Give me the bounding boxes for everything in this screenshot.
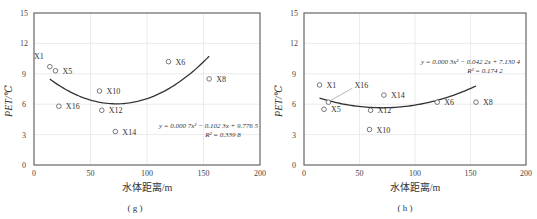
x-axis-label: 水体距离/m <box>122 181 173 193</box>
svg-text:15: 15 <box>20 9 28 18</box>
svg-text:100: 100 <box>409 169 421 178</box>
point-marker-icon <box>48 64 53 69</box>
data-point-x14: X14 <box>113 128 136 137</box>
svg-text:R² = 0.174 2: R² = 0.174 2 <box>466 67 503 75</box>
svg-text:200: 200 <box>254 169 266 178</box>
svg-text:9: 9 <box>292 70 296 79</box>
panel-caption: ( h ) <box>398 203 413 213</box>
chart-panel-g: 03691215050100150200水体距离/mPET/℃( g )X1X5… <box>3 9 266 213</box>
point-label: X6 <box>175 58 185 67</box>
point-marker-icon <box>382 93 387 98</box>
point-marker-icon <box>474 100 479 105</box>
point-label: X5 <box>62 67 72 76</box>
point-label: X6 <box>444 98 454 107</box>
point-marker-icon <box>100 108 105 113</box>
svg-text:50: 50 <box>356 169 364 178</box>
svg-text:9: 9 <box>22 70 26 79</box>
point-marker-icon <box>166 59 171 64</box>
data-point-x12: X12 <box>100 106 123 115</box>
chart-panel-h: 03691215050100150200水体距离/mPET/℃( h )X1X1… <box>273 9 532 213</box>
point-label: X14 <box>122 128 136 137</box>
point-marker-icon <box>207 77 212 82</box>
svg-text:3: 3 <box>22 131 26 140</box>
point-label: X14 <box>391 91 405 100</box>
point-label: X8 <box>216 75 226 84</box>
point-marker-icon <box>317 83 322 88</box>
point-label: X5 <box>331 105 341 114</box>
point-label: X10 <box>107 87 121 96</box>
data-point-x8: X8 <box>207 75 226 84</box>
svg-text:0: 0 <box>32 169 36 178</box>
data-point-x6: X6 <box>166 58 185 67</box>
svg-text:50: 50 <box>87 169 95 178</box>
regression-equation: y = 0.000 3x² − 0.042 2x + 7.130 4R² = 0… <box>420 58 521 75</box>
svg-text:3: 3 <box>292 131 296 140</box>
data-point-x16: X16 <box>57 102 80 111</box>
data-point-x10: X10 <box>97 87 120 96</box>
point-marker-icon <box>435 100 440 105</box>
data-point-x14: X14 <box>382 91 405 100</box>
point-marker-icon <box>368 108 373 113</box>
regression-equation: y = 0.000 7x² − 0.102 3x + 9.776 5R² = 0… <box>158 122 259 139</box>
svg-text:0: 0 <box>292 161 296 170</box>
data-point-x1: X1 <box>34 52 52 69</box>
chart-canvas: 03691215050100150200水体距离/mPET/℃( g )X1X5… <box>0 0 537 219</box>
data-point-x5: X5 <box>322 105 341 114</box>
y-tick-labels: 03691215 <box>290 9 298 170</box>
point-label: X1 <box>34 52 44 61</box>
data-point-x1: X1 <box>317 81 336 90</box>
data-point-x10: X10 <box>367 126 390 135</box>
x-tick-labels: 050100150200 <box>32 169 266 178</box>
y-axis-label: PET/℃ <box>3 85 14 118</box>
svg-text:100: 100 <box>141 169 153 178</box>
label-leader-line <box>329 88 352 101</box>
point-label: X8 <box>483 98 493 107</box>
point-marker-icon <box>322 107 327 112</box>
y-tick-labels: 03691215 <box>20 9 28 170</box>
svg-text:y = 0.000 7x² − 0.102 3x + 9.7: y = 0.000 7x² − 0.102 3x + 9.776 5 <box>158 122 259 130</box>
svg-text:200: 200 <box>520 169 532 178</box>
svg-text:0: 0 <box>302 169 306 178</box>
gridlines <box>34 13 260 165</box>
svg-text:150: 150 <box>465 169 477 178</box>
point-marker-icon <box>97 89 102 94</box>
panel-caption: ( g ) <box>128 203 143 213</box>
svg-text:12: 12 <box>290 39 298 48</box>
point-marker-icon <box>367 127 372 132</box>
svg-text:R² = 0.339 8: R² = 0.339 8 <box>204 131 241 139</box>
point-marker-icon <box>53 68 58 73</box>
data-point-x8: X8 <box>474 98 493 107</box>
x-tick-labels: 050100150200 <box>302 169 532 178</box>
point-label: X16 <box>354 81 368 90</box>
point-label: X16 <box>66 102 80 111</box>
point-label: X10 <box>376 126 390 135</box>
y-axis-label: PET/℃ <box>273 85 284 118</box>
data-points: X1X16X5X14X12X10X6X8 <box>317 81 493 135</box>
svg-text:6: 6 <box>292 100 296 109</box>
point-label: X12 <box>378 106 392 115</box>
svg-text:6: 6 <box>22 100 26 109</box>
svg-text:15: 15 <box>290 9 298 18</box>
point-label: X12 <box>109 106 123 115</box>
x-axis-label: 水体距离/m <box>390 181 441 193</box>
point-marker-icon <box>113 129 118 134</box>
svg-text:0: 0 <box>22 161 26 170</box>
svg-text:12: 12 <box>20 39 28 48</box>
svg-text:y = 0.000 3x² − 0.042 2x + 7.1: y = 0.000 3x² − 0.042 2x + 7.130 4 <box>420 58 521 66</box>
point-marker-icon <box>57 104 62 109</box>
gridlines <box>304 13 526 165</box>
point-label: X1 <box>327 81 337 90</box>
svg-text:150: 150 <box>198 169 210 178</box>
data-point-x5: X5 <box>53 67 72 76</box>
